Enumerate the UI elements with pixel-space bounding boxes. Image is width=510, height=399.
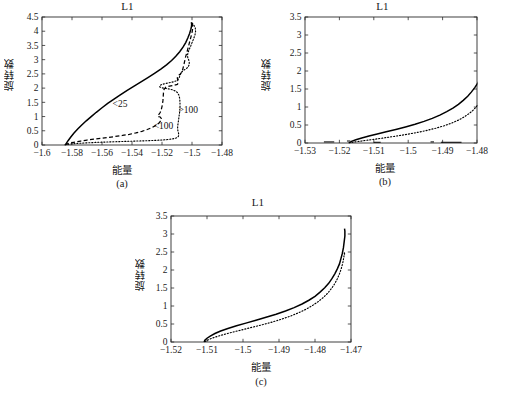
x-tick-label: −1.47 [340,345,362,355]
y-tick-label: 3 [163,229,168,239]
x-tick-label: −1.49 [432,146,454,156]
curve-annotation: <100 [154,121,174,131]
x-tick-label: −1.48 [211,148,233,158]
y-tick-label: 1 [163,301,168,311]
panel-b: L1 −1.53−1.52−1.51−1.5−1.49−1.4800.511.5… [255,0,510,200]
y-tick-label: 0 [163,337,168,347]
y-tick-label: 1 [34,112,39,122]
series-solid [204,229,345,342]
y-tick-label: 1.5 [290,84,302,94]
series-solid [349,29,492,143]
y-tick-label: 1 [297,102,302,112]
panel-c-xlabel: 能量 [231,359,291,374]
x-tick-label: −1.5 [183,148,200,158]
panel-a-ylabel: 旋转数 [2,58,17,91]
y-tick-label: 2.5 [156,247,168,257]
y-tick-label: 2 [34,83,39,93]
y-tick-label: 3.5 [156,211,168,221]
y-tick-label: 3.5 [27,41,39,51]
panel-b-xlabel: 能量 [355,160,415,175]
y-tick-label: 0.5 [156,319,168,329]
x-tick-label: −1.54 [121,148,143,158]
x-tick-label: −1.52 [328,146,350,156]
x-tick-label: −1.51 [363,146,385,156]
series-100 [65,23,193,145]
y-tick-label: 4 [34,26,39,36]
x-tick-label: −1.48 [304,345,326,355]
curve-annotation: <25 [113,99,128,109]
y-tick-label: 2.5 [290,48,302,58]
x-tick-label: −1.56 [91,148,113,158]
y-tick-label: 0.5 [27,126,39,136]
x-tick-label: −1.52 [151,148,173,158]
x-tick-label: −1.51 [196,345,218,355]
x-tick-label: −1.48 [466,146,488,156]
curve-annotation: >100 [178,105,198,115]
panel-a-caption: (a) [92,178,152,189]
x-tick-label: −1.49 [268,345,290,355]
y-tick-label: 1.5 [27,98,39,108]
x-tick-label: −1.58 [61,148,83,158]
panel-a: L1 −1.6−1.58−1.56−1.54−1.52−1.5−1.4800.5… [0,0,255,200]
panel-c-caption: (c) [231,376,291,387]
x-tick-label: −1.5 [400,146,417,156]
y-tick-label: 4.5 [27,12,39,22]
series-dotted [205,252,345,342]
series-100 [65,22,196,145]
x-tick-label: −1.5 [234,345,251,355]
y-tick-label: 0 [34,140,39,150]
series-dotted [349,31,493,142]
panel-b-caption: (b) [355,176,415,187]
y-tick-label: 0.5 [290,120,302,130]
panel-c-ylabel: 旋转数 [133,258,148,291]
panel-b-ylabel: 旋转数 [259,58,274,91]
y-tick-label: 2.5 [27,69,39,79]
y-tick-label: 2 [163,265,168,275]
y-tick-label: 3.5 [290,12,302,22]
y-tick-label: 0 [297,138,302,148]
panel-a-xlabel: 能量 [92,162,152,177]
y-tick-label: 3 [297,30,302,40]
y-tick-label: 1.5 [156,283,168,293]
y-tick-label: 2 [297,66,302,76]
y-tick-label: 3 [34,55,39,65]
panel-c: L1 −1.52−1.51−1.5−1.49−1.48−1.4700.511.5… [123,196,393,399]
